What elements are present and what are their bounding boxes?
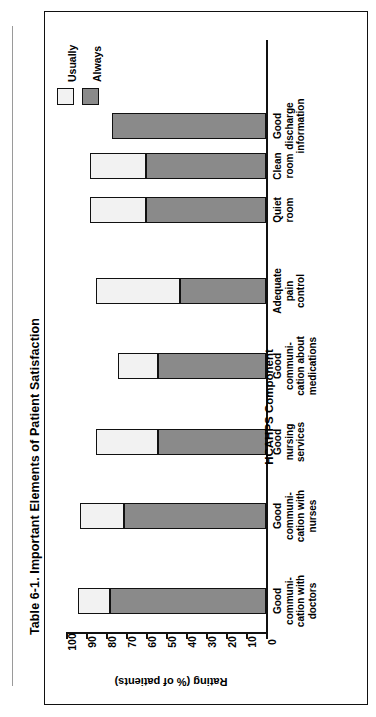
value-axis-tick-label: 20 xyxy=(226,627,238,657)
category-label-line: pain xyxy=(284,246,296,336)
bar-segment-usually xyxy=(90,153,146,179)
page-edge-rule xyxy=(12,26,13,686)
bar-segment-always xyxy=(124,503,266,529)
bar-segment-usually xyxy=(90,197,146,223)
value-axis-tick-label: 10 xyxy=(246,627,258,657)
figure-page: Table 6-1. Important Elements of Patient… xyxy=(0,0,376,717)
category-label-line: information xyxy=(295,81,307,171)
bar-segment-always xyxy=(110,588,266,614)
bar-segment-usually xyxy=(118,353,158,379)
bar-segment-usually xyxy=(96,278,180,304)
category-label-line: Good xyxy=(272,81,284,171)
bar-row xyxy=(45,278,369,304)
value-axis-title: Rating (% of patients) xyxy=(91,676,251,688)
bar-segment-always xyxy=(158,353,266,379)
category-label-line: doctors xyxy=(307,556,319,646)
category-label-line: communi- xyxy=(284,556,296,646)
bar-segment-usually xyxy=(96,429,158,455)
category-label: Goodcommuni-cation withdoctors xyxy=(272,556,318,646)
bar-segment-usually xyxy=(78,588,110,614)
legend-swatch-always xyxy=(82,88,99,105)
bar-row xyxy=(45,353,369,379)
category-label-line: medications xyxy=(307,321,319,411)
value-axis-tick-label: 50 xyxy=(166,627,178,657)
category-label: Adequatepaincontrol xyxy=(272,246,307,336)
category-label-line: Good xyxy=(272,556,284,646)
legend-label-always: Always xyxy=(91,46,103,82)
value-axis-tick-label: 80 xyxy=(106,627,118,657)
value-axis-tick-label: 100 xyxy=(66,627,78,657)
bar-segment-always xyxy=(146,197,266,223)
category-label: Gooddischargeinformation xyxy=(272,81,307,171)
legend-label-usually: Usually xyxy=(66,45,78,82)
bar-row xyxy=(45,588,369,614)
bar-segment-usually xyxy=(80,503,124,529)
category-label-line: discharge xyxy=(284,81,296,171)
figure-frame: 0102030405060708090100 Goodcommuni-catio… xyxy=(44,11,368,705)
category-label-line: cation with xyxy=(295,556,307,646)
bar-segment-always xyxy=(158,429,266,455)
bar-segment-always xyxy=(180,278,266,304)
bar-segment-always xyxy=(112,113,266,139)
category-label-line: Adequate xyxy=(272,246,284,336)
bar-row xyxy=(45,429,369,455)
bar-segment-always xyxy=(146,153,266,179)
bar-row xyxy=(45,503,369,529)
bar-row xyxy=(45,153,369,179)
value-axis-tick-label: 40 xyxy=(186,627,198,657)
bar-row xyxy=(45,197,369,223)
legend-swatch-usually xyxy=(57,88,74,105)
chart-legend: Usually Always xyxy=(57,30,117,140)
value-axis-tick-label: 70 xyxy=(126,627,138,657)
category-label-line: control xyxy=(295,246,307,336)
value-axis-tick-label: 30 xyxy=(206,627,218,657)
category-label-line: nurses xyxy=(307,471,319,561)
category-axis-title: HCAHPS Component xyxy=(263,332,275,482)
value-axis-tick-label: 90 xyxy=(86,627,98,657)
value-axis-tick-label: 60 xyxy=(146,627,158,657)
